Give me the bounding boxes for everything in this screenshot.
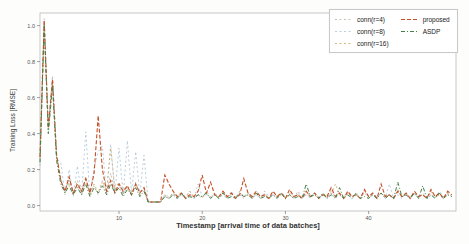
y-tick-label: 0.2 (27, 167, 35, 173)
legend-item: conn(r=8) (335, 28, 389, 35)
y-tick-label: 0.6 (27, 95, 35, 101)
screenshot: 0.00.20.40.60.81.010203040 Training Loss… (0, 0, 469, 244)
y-axis-title: Training Loss [RMSE] (9, 89, 16, 152)
legend: conn(r=4)conn(r=8)conn(r=16)proposedASDP (329, 9, 458, 53)
legend-label: conn(r=8) (357, 28, 385, 35)
legend-label: conn(r=4) (357, 16, 385, 23)
training-loss-figure: 0.00.20.40.60.81.010203040 Training Loss… (0, 0, 469, 244)
legend-line-sample (401, 17, 419, 22)
y-tick-label: 0.8 (27, 59, 35, 65)
y-tick-label: 0.0 (27, 203, 35, 209)
x-axis-title: Timestamp [arrival time of data batches] (40, 221, 456, 230)
legend-item: conn(r=4) (335, 16, 389, 23)
legend-item: ASDP (401, 28, 450, 35)
legend-line-sample (335, 17, 353, 22)
legend-line-sample (401, 29, 419, 34)
legend-label: conn(r=16) (357, 40, 389, 47)
legend-line-sample (335, 29, 353, 34)
y-tick-label: 1.0 (27, 23, 35, 29)
legend-label: ASDP (423, 28, 441, 35)
legend-item: conn(r=16) (335, 40, 389, 47)
legend-item: proposed (401, 16, 450, 23)
legend-label: proposed (423, 16, 450, 23)
y-tick-label: 0.4 (27, 131, 35, 137)
legend-line-sample (335, 41, 353, 46)
